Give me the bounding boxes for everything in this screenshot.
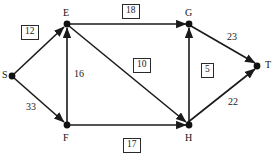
edge-weight-f-h: 17 <box>123 138 141 153</box>
diagram-canvas <box>0 0 277 160</box>
edge-g-t <box>191 26 255 63</box>
edge-weight-e-h: 10 <box>133 58 151 73</box>
edge-weight-g-t: 23 <box>227 32 237 42</box>
edge-weight-s-e: 12 <box>21 25 39 40</box>
node-dot-e[interactable] <box>64 21 71 28</box>
edge-weight-h-g: 5 <box>201 63 214 78</box>
edge-weight-s-f: 33 <box>26 102 36 112</box>
node-dot-s[interactable] <box>9 73 16 80</box>
node-dot-h[interactable] <box>186 122 193 129</box>
node-label-s: S <box>2 70 8 80</box>
node-dot-t[interactable] <box>254 63 261 70</box>
node-label-f: F <box>63 133 69 143</box>
edge-s-f <box>14 78 64 122</box>
edge-h-t <box>187 69 255 123</box>
node-label-e: E <box>63 8 69 18</box>
network-flow-diagram: S E F G H T 12 33 16 18 10 17 5 23 22 <box>0 0 277 160</box>
node-label-t: T <box>265 60 271 70</box>
node-dot-g[interactable] <box>186 21 193 28</box>
node-dot-f[interactable] <box>64 122 71 129</box>
edge-weight-e-g: 18 <box>122 4 140 19</box>
edge-weight-h-t: 22 <box>228 97 238 107</box>
edge-e-h <box>69 26 186 122</box>
node-dots-group <box>9 21 261 129</box>
edge-weight-f-e: 16 <box>74 69 84 79</box>
node-label-g: G <box>185 8 192 18</box>
node-label-h: H <box>185 133 192 143</box>
